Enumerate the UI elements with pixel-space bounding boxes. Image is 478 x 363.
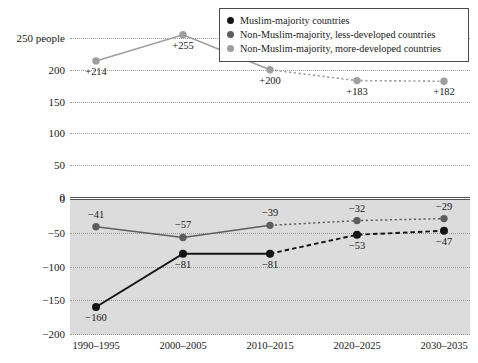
legend-item-muslim: Muslim-majority countries	[227, 14, 461, 27]
data-point-value-label: −53	[349, 240, 365, 251]
data-point-value-label: +214	[85, 66, 106, 77]
data-point-value-label: −29	[436, 201, 452, 212]
data-point-value-label: −32	[349, 203, 365, 214]
legend-swatch-dot-icon	[227, 45, 234, 52]
legend-item-label: Non-Muslim-majority, more-developed coun…	[240, 42, 441, 55]
data-point-value-label: +255	[172, 40, 193, 51]
chart-figure: 250 people2001501005000−50−100−150−200 1…	[0, 0, 478, 363]
legend-swatch-dot-icon	[227, 31, 234, 38]
data-point-marker	[266, 66, 273, 73]
data-point-marker	[353, 217, 360, 224]
data-point-marker	[179, 31, 186, 38]
data-point-value-label: −41	[88, 209, 104, 220]
data-point-marker	[440, 78, 447, 85]
data-point-value-label: −57	[175, 219, 191, 230]
data-point-marker	[179, 250, 187, 258]
legend-swatch-dot-icon	[227, 17, 234, 24]
data-point-value-label: +182	[433, 86, 454, 97]
legend-item-more-developed: Non-Muslim-majority, more-developed coun…	[227, 42, 461, 55]
legend-item-less-developed: Non-Muslim-majority, less-developed coun…	[227, 28, 461, 41]
data-point-value-label: −160	[85, 312, 106, 323]
data-point-value-label: −47	[436, 236, 452, 247]
data-point-marker	[92, 57, 99, 64]
legend-box: Muslim-majority countries Non-Muslim-maj…	[219, 8, 469, 62]
data-point-marker	[92, 223, 99, 230]
data-point-marker	[266, 250, 274, 258]
data-point-marker	[92, 303, 100, 311]
data-point-marker	[440, 215, 447, 222]
data-point-marker	[266, 222, 273, 229]
data-point-marker	[179, 234, 186, 241]
data-point-value-label: −81	[262, 259, 278, 270]
data-point-value-label: +200	[259, 75, 280, 86]
data-point-marker	[440, 227, 448, 235]
data-point-marker	[353, 77, 360, 84]
legend-item-label: Non-Muslim-majority, less-developed coun…	[240, 28, 435, 41]
data-point-value-label: +183	[346, 86, 367, 97]
legend-item-label: Muslim-majority countries	[240, 14, 350, 27]
data-point-value-label: −81	[175, 259, 191, 270]
data-point-value-label: −39	[262, 207, 278, 218]
data-point-marker	[353, 231, 361, 239]
